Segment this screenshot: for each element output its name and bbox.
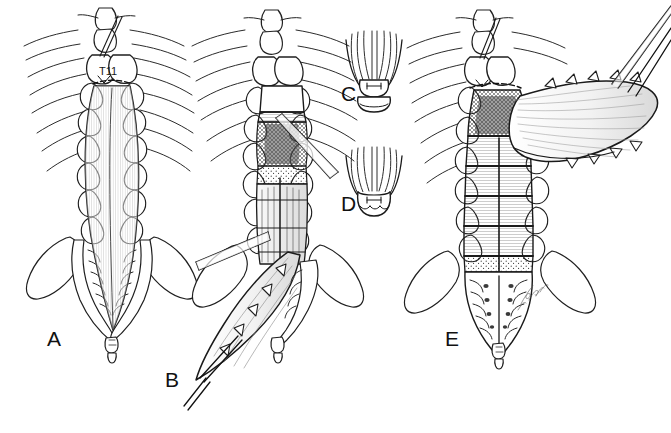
panel-label-c: C xyxy=(341,83,356,104)
vertebra-level-label: T11 xyxy=(99,66,117,77)
panel-label-b: B xyxy=(165,369,179,390)
panel-label-d: D xyxy=(341,193,356,214)
panel-label-a: A xyxy=(47,328,61,349)
surgical-figure: A B C D E T11 xyxy=(0,0,671,433)
panel-label-e: E xyxy=(445,328,459,349)
